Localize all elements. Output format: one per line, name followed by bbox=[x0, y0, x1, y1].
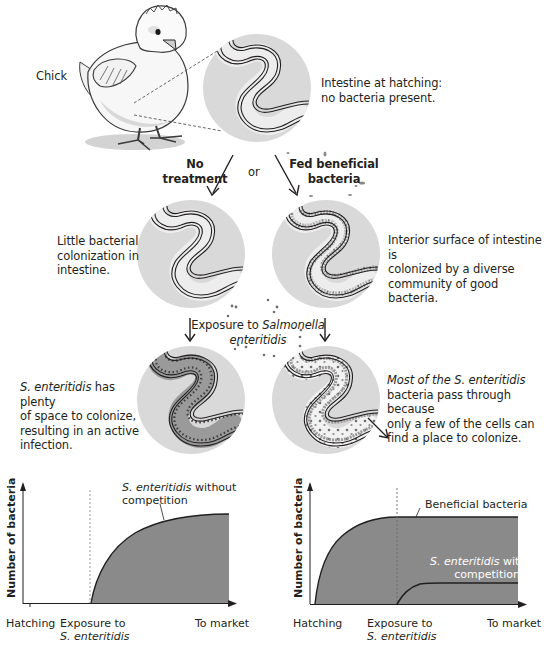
annotation-line: S. enteritidis without bbox=[122, 481, 236, 494]
chick-illustration bbox=[80, 5, 188, 150]
branch-label-line: bacteria bbox=[284, 172, 384, 187]
stage0-caption: Intestine at hatching: no bacteria prese… bbox=[321, 76, 481, 105]
intestine-circle-pass-through bbox=[272, 346, 380, 454]
caption-line: Most of the S. enteritidis bbox=[387, 373, 549, 388]
xtick-line: S. enteritidis bbox=[367, 630, 437, 643]
caption-line: bacteria pass through because bbox=[387, 388, 549, 417]
annotation-text: with bbox=[500, 555, 527, 568]
right-chart-xtick-market: To market bbox=[487, 617, 541, 630]
intestine-circle-little-colonization bbox=[137, 200, 245, 308]
branch-label-line: Fed beneficial bbox=[284, 157, 384, 172]
stage2-right-caption: Most of the S. enteritidis bacteria pass… bbox=[387, 373, 549, 446]
right-chart-xtick-exposure: Exposure to S. enteritidis bbox=[367, 617, 437, 643]
left-chart-xtick-market: To market bbox=[195, 617, 249, 630]
right-chart-annotation-beneficial: Beneficial bacteria bbox=[425, 498, 528, 511]
stage1-right-caption: Interior surface of intestine is coloniz… bbox=[388, 233, 548, 306]
right-chart-xtick-hatching: Hatching bbox=[293, 617, 342, 630]
species-name: S. enteritidis bbox=[430, 555, 500, 568]
area-s-enteritidis-without-competition bbox=[91, 514, 229, 603]
caption-line: Interior surface of intestine is bbox=[388, 233, 548, 262]
species-name: S. enteritidis bbox=[20, 380, 91, 394]
caption-line: infection. bbox=[20, 438, 145, 453]
stage0-caption-line: no bacteria present. bbox=[321, 91, 481, 106]
caption-line: intestine. bbox=[57, 263, 147, 278]
right-chart-annotation-s-enteritidis: S. enteritidis with competition bbox=[430, 555, 520, 581]
caption-line: colonization in bbox=[57, 249, 147, 264]
caption-line: community of good bacteria. bbox=[388, 277, 548, 306]
caption-line: Little bacterial bbox=[57, 234, 147, 249]
exposure-species: enteritidis bbox=[190, 333, 326, 348]
caption-line: of space to colonize, bbox=[20, 409, 145, 424]
annotation-text: without bbox=[192, 481, 237, 494]
annotation-line: S. enteritidis with bbox=[430, 555, 520, 568]
exposure-label-line1: Exposure to Salmonella bbox=[190, 318, 326, 333]
intestine-circle-active-infection bbox=[137, 346, 245, 454]
branch-no-treatment-label: No treatment bbox=[160, 157, 230, 186]
caption-line: colonized by a diverse bbox=[388, 262, 548, 277]
stage0-caption-line: Intestine at hatching: bbox=[321, 76, 481, 91]
right-chart-ylabel: Number of bacteria bbox=[292, 478, 305, 598]
stage2-left-caption: S. enteritidis has plenty of space to co… bbox=[20, 380, 145, 453]
exposure-prefix: Exposure to bbox=[191, 318, 262, 332]
intestine-circle-hatching bbox=[203, 34, 311, 142]
left-chart-xtick-exposure: Exposure to S. enteritidis bbox=[60, 617, 130, 643]
stage1-left-caption: Little bacterial colonization in intesti… bbox=[57, 234, 147, 278]
left-chart-annotation: S. enteritidis without competition bbox=[122, 481, 236, 507]
species-name: S. enteritidis bbox=[122, 481, 192, 494]
annotation-line: competition bbox=[430, 568, 520, 581]
caption-line: S. enteritidis has plenty bbox=[20, 380, 145, 409]
xtick-line: S. enteritidis bbox=[60, 630, 130, 643]
caption-line: resulting in an active bbox=[20, 424, 145, 439]
xtick-line: Exposure to bbox=[367, 617, 437, 630]
left-chart-ylabel: Number of bacteria bbox=[5, 478, 18, 598]
intestine-circle-beneficial-colonized bbox=[272, 200, 380, 308]
branch-label-line: treatment bbox=[160, 172, 230, 187]
branch-label-line: No bbox=[160, 157, 230, 172]
exposure-label: Exposure to Salmonella enteritidis bbox=[190, 318, 326, 347]
arrow-head bbox=[207, 186, 219, 195]
chick-label: Chick bbox=[36, 69, 67, 84]
left-chart-xtick-hatching: Hatching bbox=[6, 617, 55, 630]
exposure-genus: Salmonella bbox=[262, 318, 325, 332]
branch-or-label: or bbox=[248, 165, 260, 180]
annotation-line: competition bbox=[122, 494, 236, 507]
caption-line: find a place to colonize. bbox=[387, 431, 549, 446]
caption-line: only a few of the cells can bbox=[387, 417, 549, 432]
branch-fed-beneficial-label: Fed beneficial bacteria bbox=[284, 157, 384, 186]
xtick-line: Exposure to bbox=[60, 617, 130, 630]
